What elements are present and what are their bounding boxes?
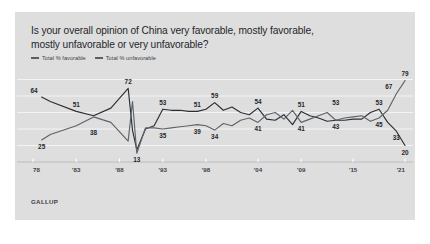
chart-legend: Total % favorable Total % unfavorable <box>31 55 156 61</box>
data-point-label: 45 <box>375 121 383 128</box>
x-tick-label: '93 <box>159 166 168 173</box>
x-tick-label: '98 <box>202 166 211 173</box>
x-tick-label: '09 <box>297 166 306 173</box>
series-line-favorable <box>42 88 405 150</box>
x-tick-label: '88 <box>115 166 124 173</box>
data-point-label: 51 <box>298 101 306 108</box>
series-lines <box>42 81 405 154</box>
data-point-label: 67 <box>385 83 393 90</box>
data-point-label: 53 <box>159 99 167 106</box>
data-point-label: 51 <box>194 101 202 108</box>
plot-area: 6451725351595451535333202538133539344141… <box>15 68 415 190</box>
legend-item-favorable[interactable]: Total % favorable <box>31 55 86 61</box>
x-tick-label: '04 <box>254 166 263 173</box>
data-point-label: 38 <box>90 129 98 136</box>
legend-dash-icon-favorable <box>31 57 39 59</box>
data-point-label: 39 <box>194 128 202 135</box>
chart-card: Is your overall opinion of China very fa… <box>15 12 415 220</box>
data-point-label: 64 <box>31 87 39 94</box>
x-tick-label: 78 <box>33 166 40 173</box>
data-point-label: 33 <box>393 134 401 141</box>
data-point-label: 41 <box>254 125 262 132</box>
x-tick-label: '21 <box>397 166 406 173</box>
legend-item-unfavorable[interactable]: Total % unfavorable <box>95 55 156 61</box>
data-point-label: 72 <box>125 78 133 85</box>
data-point-label: 59 <box>211 92 219 99</box>
data-point-label: 20 <box>401 149 409 156</box>
data-point-label: 41 <box>298 125 306 132</box>
x-tick-label: '83 <box>72 166 81 173</box>
data-point-label: 51 <box>73 101 81 108</box>
data-point-label: 54 <box>254 98 262 105</box>
data-point-label: 25 <box>38 143 46 150</box>
source-attribution: GALLUP <box>31 198 58 205</box>
data-point-label: 53 <box>375 99 383 106</box>
series-line-unfavorable <box>42 81 405 154</box>
legend-dash-icon-unfavorable <box>95 57 103 59</box>
data-point-label: 34 <box>211 133 219 140</box>
data-point-label: 35 <box>159 132 167 139</box>
chart-title: Is your overall opinion of China very fa… <box>31 24 391 51</box>
line-chart-svg: 6451725351595451535333202538133539344141… <box>15 68 415 190</box>
chart-title-line-2: mostly unfavorable or very unfavorable? <box>31 38 391 52</box>
data-point-label: 13 <box>133 156 141 163</box>
data-point-label: 53 <box>332 99 340 106</box>
chart-title-line-1: Is your overall opinion of China very fa… <box>31 24 391 38</box>
x-tick-label: '15 <box>349 166 358 173</box>
data-point-label: 79 <box>401 70 409 77</box>
x-tick-labels: 78'83'88'93'98'04'09'15'21 <box>33 166 406 173</box>
data-point-label: 43 <box>332 123 340 130</box>
legend-label-favorable: Total % favorable <box>42 55 86 61</box>
legend-label-unfavorable: Total % unfavorable <box>106 55 156 61</box>
axis <box>17 159 413 163</box>
